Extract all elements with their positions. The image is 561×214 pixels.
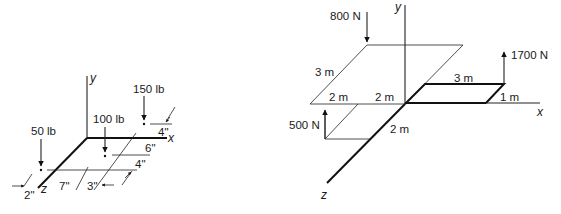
right-dim-3m-right: 3 m — [454, 72, 473, 84]
left-diag-b — [94, 133, 136, 190]
left-dim-7in: 7" — [59, 180, 69, 192]
right-z-label: z — [320, 188, 327, 202]
left-dim-3in: 3" — [87, 180, 97, 192]
left-figure: y x z 50 lb 100 lb 150 lb — [12, 71, 175, 201]
load-100lb-label: 100 lb — [93, 113, 124, 125]
left-dim-2in: 2" — [24, 189, 34, 201]
load-150lb: 150 lb — [133, 83, 164, 125]
left-z-label: z — [40, 182, 47, 196]
left-dim-4in-upper: 4" — [158, 126, 168, 138]
load-100lb: 100 lb — [93, 113, 124, 157]
left-dim-6in: 6" — [145, 142, 155, 154]
load-800N: 800 N — [330, 10, 367, 42]
right-z-axis — [327, 104, 405, 183]
left-diag-c — [24, 174, 32, 186]
right-x-label: x — [536, 105, 544, 119]
load-50lb-label: 50 lb — [31, 125, 56, 137]
left-dim-4in-lower: 4" — [135, 158, 145, 170]
load-500N: 500 N — [289, 110, 325, 139]
load-50lb: 50 lb — [31, 125, 56, 171]
right-y-label: y — [394, 0, 402, 14]
right-frame — [405, 84, 504, 104]
left-diag-d — [122, 171, 132, 185]
load-150lb-label: 150 lb — [133, 83, 164, 95]
load-800N-label: 800 N — [330, 10, 361, 22]
load-1700N: 1700 N — [504, 49, 548, 84]
left-diag-e — [167, 107, 175, 120]
right-dim-2m-b: 2 m — [375, 91, 394, 103]
right-dim-1m: 1 m — [500, 91, 519, 103]
lower-left-frame — [325, 104, 370, 139]
left-y-label: y — [89, 71, 97, 85]
load-1700N-label: 1700 N — [511, 49, 548, 61]
diagram-canvas: y x z 50 lb 100 lb 150 lb — [0, 0, 561, 214]
right-figure: y x z 800 N 500 N 1700 N 3 m 2 m 2 m 2 m… — [289, 0, 548, 202]
right-dim-2m-z: 2 m — [390, 123, 409, 135]
right-dim-3m-left: 3 m — [315, 66, 334, 78]
load-500N-label: 500 N — [289, 119, 320, 131]
right-dim-2m-a: 2 m — [329, 91, 348, 103]
